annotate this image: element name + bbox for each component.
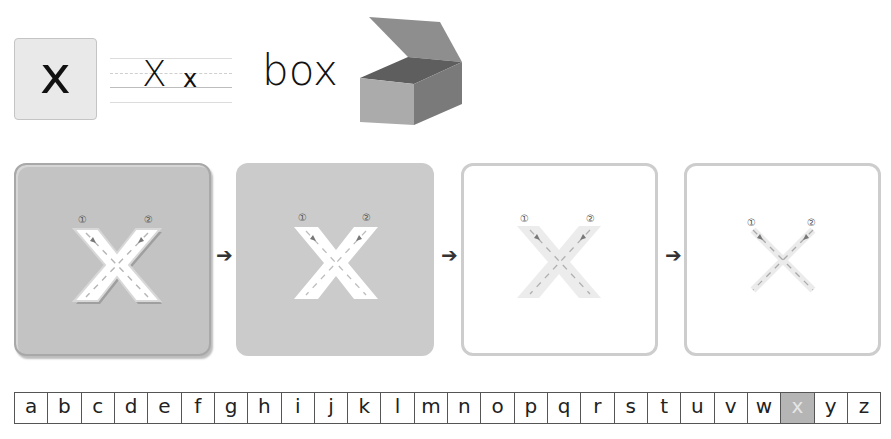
svg-text:②: ②: [807, 217, 816, 228]
alphabet-cell-p[interactable]: p: [515, 393, 548, 423]
alphabet-cell-e[interactable]: e: [148, 393, 181, 423]
guide-line-top: [110, 58, 232, 59]
guide-line-bottom: [110, 102, 232, 103]
alphabet-cell-s[interactable]: s: [615, 393, 648, 423]
alphabet-cell-v[interactable]: v: [715, 393, 748, 423]
guide-line-mid: [110, 73, 232, 74]
alphabet-cell-t[interactable]: t: [648, 393, 681, 423]
svg-text:①: ①: [298, 212, 307, 223]
letter-card: x: [14, 38, 97, 120]
stroke-2-label: ②: [144, 214, 153, 225]
writing-guide: X x: [110, 56, 232, 104]
stroke-step-panel-2: ① ②: [236, 163, 434, 356]
lowercase-letter: x: [183, 69, 197, 89]
box-illustration-icon: [352, 12, 464, 126]
svg-text:②: ②: [362, 212, 371, 223]
alphabet-cell-u[interactable]: u: [681, 393, 714, 423]
alphabet-cell-r[interactable]: r: [581, 393, 614, 423]
alphabet-cell-d[interactable]: d: [115, 393, 148, 423]
alphabet-cell-g[interactable]: g: [215, 393, 248, 423]
alphabet-cell-k[interactable]: k: [348, 393, 381, 423]
stroke-1-label: ①: [78, 214, 87, 225]
svg-text:①: ①: [747, 217, 756, 228]
alphabet-cell-l[interactable]: l: [381, 393, 414, 423]
alphabet-cell-a[interactable]: a: [15, 393, 48, 423]
alphabet-cell-m[interactable]: m: [415, 393, 448, 423]
alphabet-cell-x[interactable]: x: [781, 393, 814, 423]
alphabet-cell-j[interactable]: j: [315, 393, 348, 423]
alphabet-strip: abcdefghijklmnopqrstuvwxyz: [14, 392, 881, 424]
arrow-right-icon: ➔: [665, 245, 682, 265]
stroke-step-panel-1: ① ②: [14, 163, 211, 356]
alphabet-cell-b[interactable]: b: [48, 393, 81, 423]
alphabet-cell-h[interactable]: h: [248, 393, 281, 423]
stroke-step-panel-4: ① ②: [684, 163, 881, 356]
uppercase-letter: X: [142, 59, 167, 89]
svg-text:②: ②: [586, 213, 595, 224]
alphabet-cell-i[interactable]: i: [282, 393, 315, 423]
arrow-right-icon: ➔: [216, 245, 233, 265]
alphabet-cell-q[interactable]: q: [548, 393, 581, 423]
example-word: box: [262, 50, 338, 92]
alphabet-cell-w[interactable]: w: [748, 393, 781, 423]
alphabet-cell-f[interactable]: f: [182, 393, 215, 423]
alphabet-cell-z[interactable]: z: [848, 393, 880, 423]
guide-line-base: [110, 87, 232, 88]
svg-text:①: ①: [520, 213, 529, 224]
alphabet-cell-n[interactable]: n: [448, 393, 481, 423]
alphabet-cell-c[interactable]: c: [82, 393, 115, 423]
alphabet-cell-o[interactable]: o: [481, 393, 514, 423]
stroke-step-panel-3: ① ②: [461, 163, 658, 356]
alphabet-cell-y[interactable]: y: [815, 393, 848, 423]
letter-card-glyph: x: [40, 49, 71, 101]
arrow-right-icon: ➔: [441, 245, 458, 265]
